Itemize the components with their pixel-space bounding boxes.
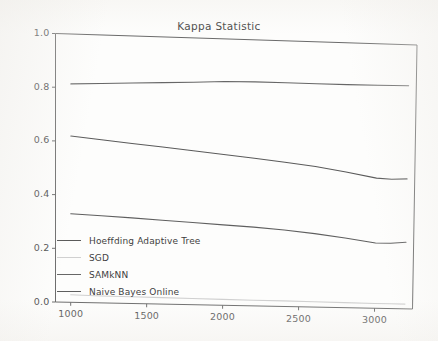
- x-tick-label: 1500: [127, 310, 167, 321]
- legend-item: SAMkNN: [57, 266, 222, 283]
- chart-figure: Kappa Statistic 0.00.20.40.60.81.0 10001…: [0, 0, 438, 341]
- legend-label-hoeffding-adaptive-tree: Hoeffding Adaptive Tree: [89, 236, 201, 246]
- y-tick-label: 0.4: [12, 188, 50, 199]
- legend-label-sgd: SGD: [89, 253, 109, 263]
- legend-item: Hoeffding Adaptive Tree: [57, 232, 222, 249]
- chart-legend: Hoeffding Adaptive Tree SGD SAMkNN Naive…: [57, 232, 222, 300]
- x-tick-label: 3000: [355, 314, 395, 325]
- series-line: [71, 82, 409, 86]
- legend-item: SGD: [57, 249, 222, 266]
- x-tick-label: 1000: [51, 308, 91, 319]
- y-tick-label: 0.8: [12, 81, 50, 92]
- series-line: [71, 136, 407, 179]
- legend-item: Naive Bayes Online: [57, 283, 222, 300]
- y-tick-label: 0.6: [12, 134, 50, 145]
- x-tick-label: 2500: [279, 313, 319, 324]
- legend-label-naive-bayes-online: Naive Bayes Online: [89, 287, 179, 297]
- y-tick-label: 0.2: [12, 242, 50, 253]
- y-tick-label: 0.0: [12, 296, 50, 307]
- x-tick-label: 2000: [203, 311, 243, 322]
- legend-label-samknn: SAMkNN: [89, 270, 128, 280]
- legend-line-swatch-samknn: [57, 274, 81, 275]
- legend-line-swatch-naive-bayes-online: [57, 291, 81, 292]
- y-tick-label: 1.0: [12, 27, 50, 38]
- legend-line-swatch-hoeffding-adaptive-tree: [57, 240, 81, 241]
- legend-line-swatch-sgd: [57, 257, 81, 258]
